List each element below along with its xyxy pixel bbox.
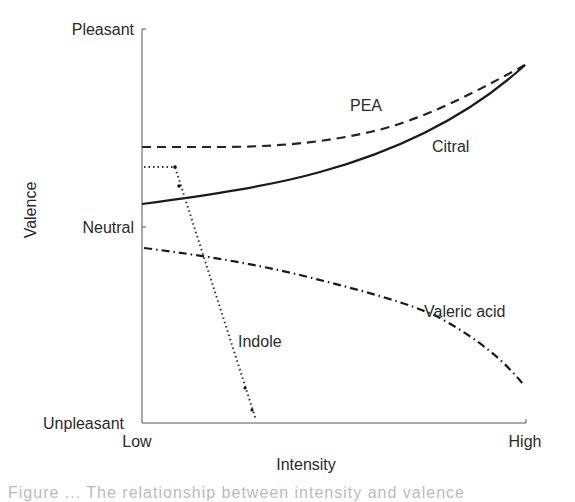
label-indole: Indole — [238, 333, 282, 350]
y-tick-unpleasant: Unpleasant — [43, 415, 125, 432]
label-pea: PEA — [350, 97, 382, 114]
indole-point — [173, 165, 177, 169]
axes — [142, 29, 526, 423]
x-tick-low: Low — [122, 433, 152, 450]
series-indole-line — [144, 167, 256, 420]
y-axis-title: Valence — [22, 182, 39, 239]
y-tick-neutral: Neutral — [82, 219, 134, 236]
indole-point — [177, 184, 181, 188]
x-tick-high: High — [509, 433, 542, 450]
series-pea-line — [142, 65, 525, 147]
indole-point — [250, 408, 253, 411]
figure-caption: Figure ... The relationship between inte… — [8, 484, 465, 502]
series-citral-line — [142, 65, 525, 204]
label-citral: Citral — [432, 138, 469, 155]
y-tick-pleasant: Pleasant — [72, 21, 135, 38]
indole-point — [243, 386, 246, 389]
x-axis-title: Intensity — [276, 456, 336, 473]
label-valeric-acid: Valeric acid — [424, 303, 506, 320]
